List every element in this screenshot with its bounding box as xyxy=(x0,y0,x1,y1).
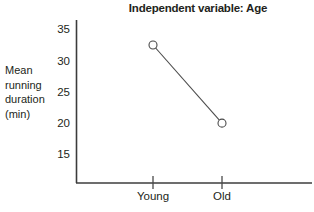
plot-area xyxy=(0,0,314,212)
chart-figure: Independent variable: Age Mean running d… xyxy=(0,0,314,212)
series-line xyxy=(153,45,222,123)
data-point-old xyxy=(218,119,226,127)
data-point-young xyxy=(149,41,157,49)
